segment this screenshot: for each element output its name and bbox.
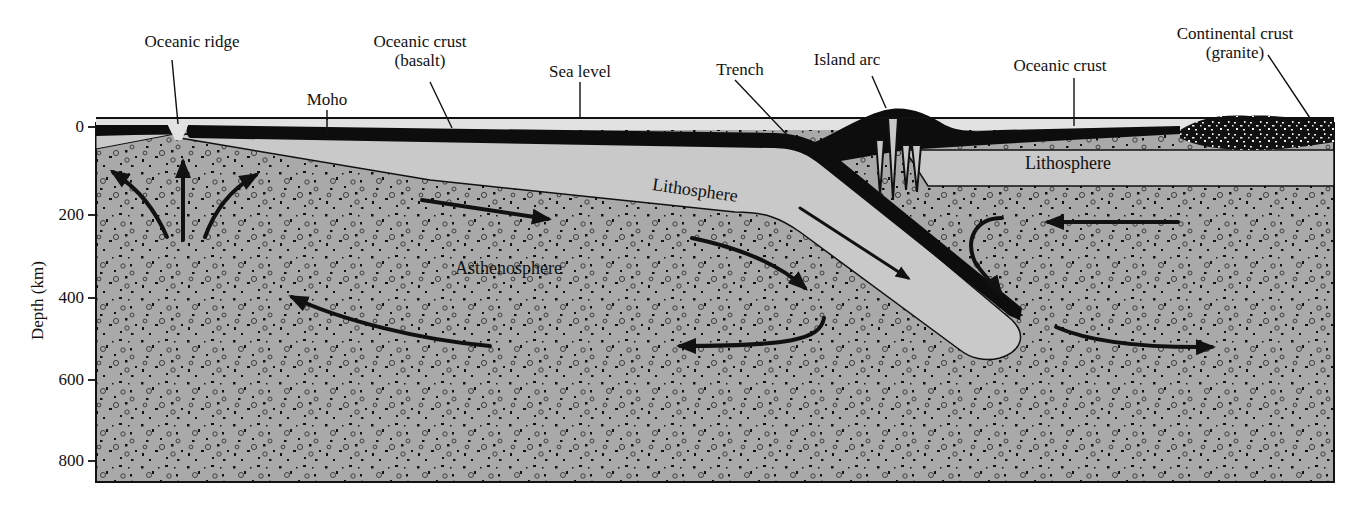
label-continental-crust-line1: Continental crust bbox=[1140, 24, 1330, 43]
lithosphere-right-plate bbox=[905, 150, 1334, 186]
tick-label-200: 200 bbox=[40, 205, 84, 225]
tick-label-600: 600 bbox=[40, 370, 84, 390]
label-oceanic-crust: Oceanic crust bbox=[1000, 56, 1120, 75]
tick-label-0: 0 bbox=[40, 117, 84, 137]
label-continental-crust-line2: (granite) bbox=[1140, 43, 1330, 62]
label-oceanic-crust-basalt-line2: (basalt) bbox=[355, 51, 485, 70]
tick-label-800: 800 bbox=[40, 451, 84, 471]
label-moho: Moho bbox=[297, 90, 357, 109]
label-oceanic-crust-basalt: Oceanic crust (basalt) bbox=[355, 32, 485, 70]
label-sea-level: Sea level bbox=[530, 62, 630, 81]
depth-axis-ticks bbox=[88, 127, 96, 461]
label-oceanic-ridge: Oceanic ridge bbox=[137, 32, 247, 51]
label-trench: Trench bbox=[700, 60, 780, 79]
tectonics-cross-section bbox=[0, 0, 1361, 506]
label-continental-crust: Continental crust (granite) bbox=[1140, 24, 1330, 62]
depth-axis-title: Depth (km) bbox=[28, 261, 48, 340]
label-lithosphere-right: Lithosphere bbox=[1025, 153, 1111, 174]
label-oceanic-crust-basalt-line1: Oceanic crust bbox=[355, 32, 485, 51]
continental-crust bbox=[1180, 116, 1334, 150]
label-asthenosphere: Asthenosphere bbox=[455, 258, 562, 279]
label-island-arc: Island arc bbox=[797, 50, 897, 69]
